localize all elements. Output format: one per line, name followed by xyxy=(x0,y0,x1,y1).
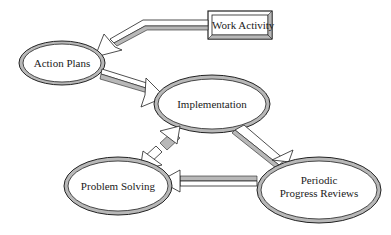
work-activity-label: Work Activity xyxy=(212,19,268,31)
arrow-work-to-action xyxy=(95,20,208,57)
diagram-canvas: Work Activity Action Plans Implementatio… xyxy=(0,0,391,235)
diagram-graphics xyxy=(0,0,391,235)
arrow-reviews-to-problem xyxy=(160,170,257,192)
arrow-problem-to-implementation xyxy=(160,126,180,150)
periodic-label-line2: Progress Reviews xyxy=(261,187,377,199)
problem-solving-label: Problem Solving xyxy=(68,180,168,192)
implementation-label: Implementation xyxy=(158,98,266,110)
action-plans-label: Action Plans xyxy=(23,57,101,69)
periodic-label-line1: Periodic xyxy=(261,174,377,186)
